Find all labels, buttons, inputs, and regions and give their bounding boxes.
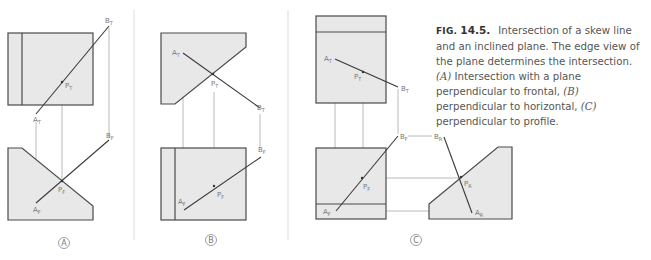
panel-c-marker-label: C xyxy=(413,236,419,245)
label-b-f: BF xyxy=(258,146,266,155)
plane-top-view-edge xyxy=(161,33,246,104)
intersection-point-front xyxy=(213,185,215,187)
caption-text-2: Intersection with a plane perpendicular … xyxy=(436,71,581,97)
intersection-point-front xyxy=(61,180,63,182)
label-b-r: BR xyxy=(434,133,443,142)
panel-b: AT PT BT BF PF AF B xyxy=(161,33,266,246)
label-b-t: BT xyxy=(257,104,266,113)
label-b-t: BT xyxy=(105,17,114,26)
caption-text-3: perpendicular to horizontal, xyxy=(436,101,581,112)
panel-b-marker-label: B xyxy=(208,236,214,245)
caption-fig-prefix: FIG. xyxy=(436,26,457,36)
plane-front-view-edge xyxy=(8,148,93,220)
panel-a-marker-label: A xyxy=(61,239,67,248)
label-b-f: BF xyxy=(106,132,114,141)
figure-caption: FIG. 14.5.Intersection of a skew line an… xyxy=(436,23,648,129)
intersection-point-front xyxy=(361,177,363,179)
label-a-t: AT xyxy=(33,116,42,125)
caption-fig-number: 14.5. xyxy=(460,24,490,36)
plane-top-view xyxy=(8,33,93,105)
label-b-f: BF xyxy=(400,133,408,142)
caption-ref-c: (C) xyxy=(581,101,597,112)
label-p-t: PT xyxy=(211,80,219,89)
intersection-point-top xyxy=(212,73,214,75)
intersection-point-top xyxy=(362,71,364,73)
caption-ref-a: (A) xyxy=(436,71,451,82)
plane-front-view xyxy=(161,148,246,220)
caption-text-4: perpendicular to profile. xyxy=(436,116,559,127)
intersection-point-top xyxy=(61,81,63,83)
panel-a: BT PT AT BF PF AF A xyxy=(8,17,114,249)
label-b-t: BT xyxy=(401,85,410,94)
intersection-point-profile xyxy=(460,176,462,178)
caption-ref-b: (B) xyxy=(563,86,578,97)
